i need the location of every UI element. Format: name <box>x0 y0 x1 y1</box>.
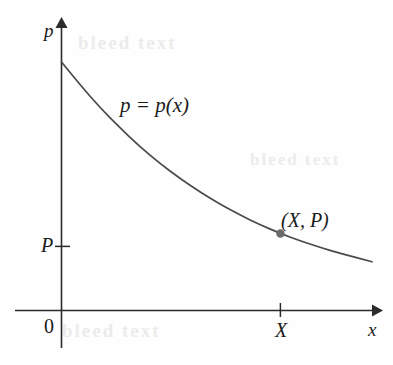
y-tick-label-P: P <box>41 235 53 255</box>
plot-canvas <box>0 0 393 365</box>
origin-label: 0 <box>44 316 54 336</box>
point-coordinate-label: (X, P) <box>281 210 329 230</box>
x-axis-arrow-icon <box>372 305 383 317</box>
demand-curve-path <box>62 62 373 262</box>
curve-equation-label: p = p(x) <box>120 95 189 116</box>
y-axis-arrow-icon <box>56 17 68 28</box>
demand-curve-figure: bleed text bleed text bleed text p x 0 P… <box>0 0 393 365</box>
x-axis-label: x <box>368 320 376 339</box>
y-axis-label: p <box>44 21 54 40</box>
x-tick-label-X: X <box>275 320 287 340</box>
